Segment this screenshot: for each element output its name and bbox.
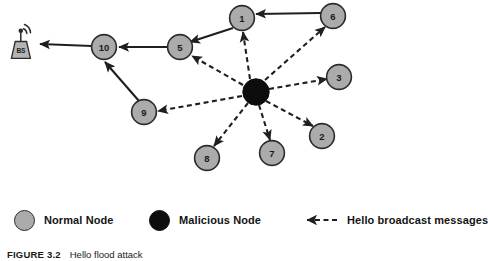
edge-4-to-1 [243,32,250,79]
bs-signal-wave-outer [25,25,31,33]
node-7[interactable]: 7 [260,141,285,166]
figure-caption: FIGURE 3.2Hello flood attack [7,249,427,261]
legend-label-normal-node: Normal Node [44,214,114,226]
edge-4-to-2 [266,101,313,126]
node-3-label: 3 [336,72,341,83]
legend-label-malicious-node: Malicious Node [179,214,261,226]
node-9-label: 9 [141,107,146,118]
edge-4-to-6 [265,27,325,80]
base-station[interactable]: BS [11,25,30,59]
edge-4-to-5 [192,56,243,85]
node-5-label: 5 [177,42,183,53]
node-5[interactable]: 5 [168,35,193,60]
node-1-label: 1 [239,13,245,24]
figure-caption-id: FIGURE 3.2 [7,249,61,260]
node-4-malicious[interactable]: 4 [243,79,269,105]
bs-signal-wave-inner [24,29,27,34]
edge-10-to-bs [40,44,92,46]
bs-label: BS [16,47,26,54]
figure-caption-title: Hello flood attack [70,249,143,260]
dashed-arrow-icon [294,213,338,227]
node-10-label: 10 [99,42,110,53]
node-8-label: 8 [204,153,209,164]
edge-4-to-7 [259,105,270,140]
edge-4-to-8 [214,103,248,146]
node-7-label: 7 [269,148,274,159]
legend: Normal Node Malicious Node Hello broadca… [0,202,434,238]
node-6[interactable]: 6 [321,4,346,29]
edge-4-to-9 [158,96,242,111]
normal-node-swatch-icon [14,210,35,231]
legend-label-hello-broadcast: Hello broadcast messages [347,214,488,226]
node-3[interactable]: 3 [327,65,352,90]
node-6-label: 6 [330,11,335,22]
edge-4-to-3 [269,79,327,89]
legend-item-hello-broadcast: Hello broadcast messages [294,202,488,238]
malicious-node-swatch-icon [149,210,170,231]
edge-9-to-10 [105,62,139,101]
node-10[interactable]: 10 [92,35,117,60]
node-9[interactable]: 9 [132,100,157,125]
edge-6-to-1 [256,13,321,14]
node-1[interactable]: 1 [230,6,255,31]
legend-item-normal-node: Normal Node [14,202,114,238]
legend-item-malicious-node: Malicious Node [149,202,261,238]
node-4-label: 4 [253,87,259,98]
node-8[interactable]: 8 [195,146,220,171]
edge-1-to-5 [190,28,233,42]
node-2-label: 2 [319,131,324,142]
node-2[interactable]: 2 [310,124,335,149]
